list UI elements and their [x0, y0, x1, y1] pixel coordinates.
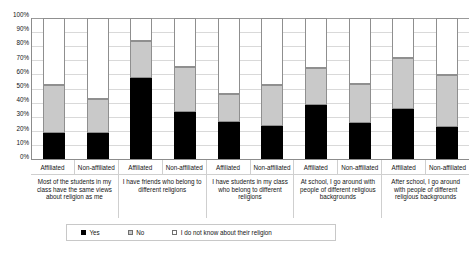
- y-tick-70: 70%: [16, 53, 29, 60]
- bar-group: [294, 18, 381, 159]
- bar-segment-no: [43, 85, 65, 133]
- y-tick-30: 30%: [16, 110, 29, 117]
- y-axis-tick-labels: 100%90%80%70%60%50%40%30%20%10%0%: [0, 14, 30, 160]
- bar-segment-yes: [130, 78, 152, 158]
- bar-segment-no: [174, 67, 196, 112]
- y-tick-100: 100%: [13, 11, 29, 18]
- y-tick-60: 60%: [16, 67, 29, 74]
- legend-swatch-no-icon: [128, 230, 133, 235]
- y-tick-80: 80%: [16, 39, 29, 46]
- bar-segment-yes: [174, 112, 196, 159]
- bar-segment-no: [349, 84, 371, 123]
- x-axis-subcategory-row: AffiliatedNon-affiliated: [382, 160, 469, 175]
- bar-segment-dk: [174, 18, 196, 67]
- bar-segment-dk: [436, 18, 458, 76]
- bar-segment-no: [392, 58, 414, 109]
- legend-label: Yes: [90, 229, 100, 236]
- legend-swatch-yes-icon: [81, 230, 86, 235]
- x-axis-category-label: Most of the students in my class have th…: [31, 175, 118, 218]
- x-axis-subcategory-row: AffiliatedNon-affiliated: [119, 160, 206, 175]
- legend-swatch-dk-icon: [172, 230, 177, 235]
- stacked-bar[interactable]: [261, 18, 283, 159]
- stacked-bar[interactable]: [349, 18, 371, 159]
- chart-legend: YesNoI do not know about their religion: [66, 224, 336, 241]
- x-axis-subcategory-label: Affiliated: [382, 160, 426, 174]
- legend-item[interactable]: I do not know about their religion: [172, 229, 272, 236]
- bar-group: [119, 18, 206, 159]
- legend-label: No: [136, 229, 144, 236]
- x-axis-subcategory-label: Non-affiliated: [338, 160, 381, 174]
- bar-segment-dk: [130, 18, 152, 42]
- x-axis-subcategory-row: AffiliatedNon-affiliated: [31, 160, 118, 175]
- x-axis-subcategory-label: Affiliated: [119, 160, 163, 174]
- bar-segment-no: [261, 85, 283, 126]
- bar-segment-yes: [218, 122, 240, 159]
- y-tick-0: 0%: [20, 153, 29, 160]
- legend-item[interactable]: No: [128, 229, 145, 236]
- stacked-bar[interactable]: [43, 18, 65, 159]
- x-axis-subcategory-label: Affiliated: [294, 160, 338, 174]
- bar-segment-no: [87, 99, 109, 133]
- bar-segment-yes: [305, 105, 327, 159]
- bar-segment-dk: [349, 18, 371, 84]
- bar-segment-yes: [87, 133, 109, 158]
- x-axis-category-label: I have friends who belong to different r…: [119, 175, 206, 218]
- x-axis-subcategory-row: AffiliatedNon-affiliated: [207, 160, 294, 175]
- x-axis-category-label: After school, I go around with people of…: [382, 175, 469, 218]
- bar-segment-dk: [87, 18, 109, 100]
- bar-segment-dk: [261, 18, 283, 86]
- plot-area-wrapper: 100%90%80%70%60%50%40%30%20%10%0%: [0, 0, 476, 168]
- x-axis-subcategory-label: Affiliated: [31, 160, 75, 174]
- bar-segment-no: [218, 94, 240, 122]
- bar-groups: [32, 18, 469, 159]
- x-axis-subcategory-label: Non-affiliated: [251, 160, 294, 174]
- bar-segment-dk: [43, 18, 65, 86]
- stacked-bar[interactable]: [87, 18, 109, 159]
- x-axis-group: AffiliatedNon-affiliatedAfter school, I …: [382, 160, 469, 218]
- x-axis-subcategory-label: Non-affiliated: [75, 160, 118, 174]
- bar-segment-no: [130, 41, 152, 78]
- plot-area: [31, 18, 469, 160]
- stacked-bar[interactable]: [305, 18, 327, 159]
- bar-segment-yes: [261, 126, 283, 158]
- x-axis-group: AffiliatedNon-affiliatedI have students …: [207, 160, 295, 218]
- stacked-bar[interactable]: [130, 18, 152, 159]
- x-axis-category-label: At school, I go around with people of di…: [294, 175, 381, 218]
- bar-segment-dk: [218, 18, 240, 94]
- y-tick-50: 50%: [16, 82, 29, 89]
- bar-segment-yes: [436, 127, 458, 158]
- stacked-bar[interactable]: [218, 18, 240, 159]
- legend-item[interactable]: Yes: [81, 229, 100, 236]
- x-axis-subcategory-label: Non-affiliated: [426, 160, 469, 174]
- stacked-bar[interactable]: [174, 18, 196, 159]
- x-axis-label-table: AffiliatedNon-affiliatedMost of the stud…: [31, 160, 469, 218]
- bar-segment-yes: [43, 133, 65, 158]
- bar-group: [32, 18, 119, 159]
- x-axis-subcategory-label: Affiliated: [207, 160, 251, 174]
- bar-segment-dk: [305, 18, 327, 69]
- bar-segment-no: [436, 75, 458, 127]
- bar-segment-dk: [392, 18, 414, 59]
- x-axis-subcategory-label: Non-affiliated: [163, 160, 206, 174]
- bar-segment-yes: [349, 123, 371, 158]
- stacked-bar-chart: 100%90%80%70%60%50%40%30%20%10%0% Affili…: [0, 0, 476, 255]
- bar-group: [207, 18, 294, 159]
- x-axis-group: AffiliatedNon-affiliatedMost of the stud…: [31, 160, 119, 218]
- stacked-bar[interactable]: [436, 18, 458, 159]
- bar-segment-yes: [392, 109, 414, 158]
- bar-group: [382, 18, 469, 159]
- bar-segment-no: [305, 68, 327, 105]
- stacked-bar[interactable]: [392, 18, 414, 159]
- y-tick-90: 90%: [16, 25, 29, 32]
- x-axis-category-label: I have students in my class who belong t…: [207, 175, 294, 218]
- x-axis-subcategory-row: AffiliatedNon-affiliated: [294, 160, 381, 175]
- y-tick-40: 40%: [16, 96, 29, 103]
- x-axis-group: AffiliatedNon-affiliatedI have friends w…: [119, 160, 207, 218]
- y-tick-10: 10%: [16, 138, 29, 145]
- y-tick-20: 20%: [16, 124, 29, 131]
- x-axis-group: AffiliatedNon-affiliatedAt school, I go …: [294, 160, 382, 218]
- legend-label: I do not know about their religion: [181, 229, 272, 236]
